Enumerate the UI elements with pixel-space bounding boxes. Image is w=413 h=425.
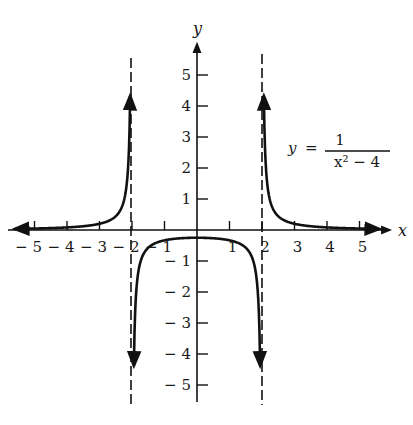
y-tick-label: 4 — [181, 97, 191, 115]
svg-text:x² − 4: x² − 4 — [334, 153, 380, 171]
y-tick-label: − 4 — [164, 345, 191, 363]
function-graph: x y − 5− 4− 3− 2− 112345 54321− 1− 2− 3−… — [0, 0, 413, 425]
svg-text:=: = — [305, 139, 318, 157]
y-tick-label: − 3 — [164, 314, 191, 332]
x-tick-label: − 2 — [113, 238, 140, 256]
x-tick-label: − 3 — [80, 238, 107, 256]
y-axis-label: y — [192, 19, 203, 38]
x-tick-label: − 5 — [15, 238, 42, 256]
x-axis-label: x — [398, 221, 407, 240]
x-tick-label: 5 — [358, 238, 368, 256]
y-tick-label: 5 — [181, 66, 191, 84]
y-tick-label: − 1 — [164, 252, 191, 270]
x-tick-label: 2 — [260, 238, 270, 256]
x-tick-label: − 4 — [48, 238, 75, 256]
svg-text:1: 1 — [335, 131, 345, 149]
y-tick-label: − 2 — [164, 283, 191, 301]
y-tick-label: − 5 — [164, 376, 191, 394]
y-tick-label: 1 — [181, 190, 191, 208]
x-tick-label: 4 — [325, 238, 335, 256]
y-tick-label: 3 — [181, 128, 191, 146]
equation-label: y = 1 x² − 4 — [287, 131, 390, 171]
x-tick-label: 3 — [293, 238, 303, 256]
y-tick-label: 2 — [181, 159, 191, 177]
svg-text:y: y — [287, 139, 297, 157]
curve-left-branch — [15, 96, 130, 229]
